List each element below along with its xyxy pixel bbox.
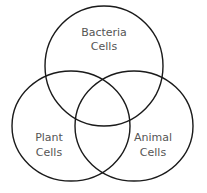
bacteria-label-line1: Bacteria (81, 26, 127, 39)
plant-label-line2: Cells (36, 146, 63, 159)
venn-diagram: Bacteria Cells Plant Cells Animal Cells (0, 0, 207, 193)
animal-label-line1: Animal (134, 131, 172, 144)
plant-label-line1: Plant (35, 131, 63, 144)
animal-cells-circle (75, 71, 193, 181)
bacteria-cells-circle (45, 6, 163, 126)
bacteria-label-line2: Cells (91, 40, 118, 53)
animal-label-line2: Cells (140, 146, 167, 159)
